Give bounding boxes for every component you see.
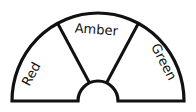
gauge-svg: Red Amber Green <box>0 0 196 112</box>
gauge-diagram: Red Amber Green <box>0 0 196 112</box>
segment-label-amber: Amber <box>74 21 119 39</box>
